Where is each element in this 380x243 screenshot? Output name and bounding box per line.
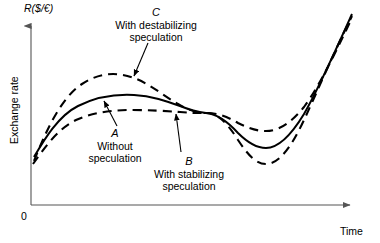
x-axis-title: Time [340,225,363,237]
curve-label-c: C With destabilizing speculation [92,6,220,44]
y-axis-annotation: R($/€) [24,2,53,14]
curve-label-a-line1: Without [72,140,158,152]
y-axis-annotation-symbol: R [24,2,32,14]
curve-label-a-key: A [72,127,158,140]
leader-line-a [104,101,117,126]
leader-line-b [176,114,181,152]
exchange-rate-speculation-figure: R($/€) Exchange rate Time 0 C With desta… [0,0,380,243]
curve-label-b-key: B [134,155,244,168]
y-axis-annotation-units: ($/€) [32,2,54,14]
leader-line-c [134,43,148,76]
curve-label-c-key: C [92,6,220,19]
curve-label-b-line2: speculation [134,180,244,192]
curve-label-c-line2: speculation [92,31,220,43]
curve-label-b: B With stabilizing speculation [134,155,244,193]
y-axis-title: Exchange rate [8,65,20,155]
origin-label: 0 [21,210,27,222]
curve-label-b-line1: With stabilizing [134,168,244,180]
curve-label-c-line1: With destabilizing [92,19,220,31]
